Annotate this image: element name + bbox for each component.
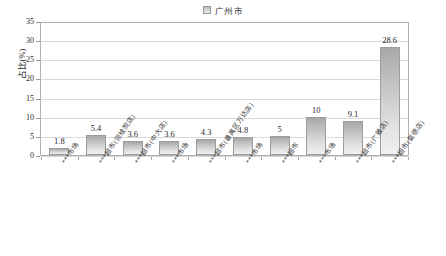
bar-value-label: 9.1 <box>348 110 359 119</box>
x-axis-tick-mark <box>114 157 115 160</box>
bar-value-label: 3.6 <box>127 130 138 139</box>
x-axis-tick-mark <box>371 157 372 160</box>
bar-value-label: 28.6 <box>382 36 397 45</box>
bar-slot: 1.8 <box>41 23 78 155</box>
bar-slot: 10 <box>298 23 335 155</box>
y-axis-tick-label: 35 <box>0 18 34 26</box>
chart-legend: 广州市 <box>0 4 446 16</box>
x-axis-tick-mark <box>188 157 189 160</box>
x-axis-labels: ***市场***超市(测绘院店)***超市(中大店)***市场***超市(番禺区… <box>41 157 408 256</box>
bar-slot: 5.4 <box>78 23 115 155</box>
x-axis-tick-mark <box>151 157 152 160</box>
x-axis-tick-mark <box>225 157 226 160</box>
x-axis-tick-mark <box>261 157 262 160</box>
y-axis-tick-label: 5 <box>0 133 34 141</box>
y-axis-tick-label: 0 <box>0 152 34 160</box>
legend-swatch-icon <box>203 6 211 14</box>
bar-value-label: 5 <box>277 125 281 134</box>
bar-value-label: 4.3 <box>201 128 212 137</box>
x-axis-tick-mark <box>41 157 42 160</box>
x-axis-tick-mark <box>298 157 299 160</box>
y-axis-tick-label: 10 <box>0 114 34 122</box>
bar-value-label: 3.6 <box>164 130 175 139</box>
bar-slot: 5 <box>261 23 298 155</box>
bar-slot: 4.3 <box>188 23 225 155</box>
y-axis-tick-label: 30 <box>0 37 34 45</box>
bar-value-label: 1.8 <box>54 137 65 146</box>
x-axis-tick-mark <box>335 157 336 160</box>
y-axis-tick-label: 20 <box>0 75 34 83</box>
y-axis-tick-mark <box>36 156 40 157</box>
x-axis-tick-mark <box>408 157 409 160</box>
x-axis-tick-mark <box>78 157 79 160</box>
bar-value-label: 5.4 <box>91 124 102 133</box>
y-axis-tick-label: 15 <box>0 95 34 103</box>
bar-slot: 9.1 <box>335 23 372 155</box>
bar[interactable] <box>306 117 326 155</box>
y-axis-tick-label: 25 <box>0 56 34 64</box>
bar[interactable] <box>343 121 363 155</box>
bar[interactable] <box>380 47 400 155</box>
legend-label: 广州市 <box>215 4 243 16</box>
bar-chart: 广州市 占比(%) 35302520151050 1.85.43.63.64.3… <box>0 0 446 256</box>
bar-value-label: 10 <box>312 106 321 115</box>
